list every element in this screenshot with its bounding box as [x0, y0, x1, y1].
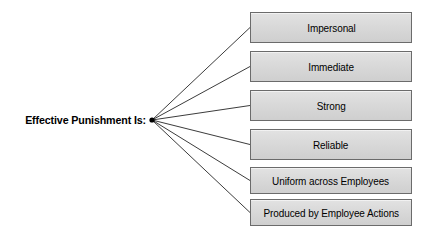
node-label: Produced by Employee Actions — [263, 207, 398, 219]
node-label: Reliable — [313, 139, 348, 151]
node-label: Strong — [317, 100, 346, 112]
connector-line — [152, 106, 250, 121]
node-box-strong[interactable]: Strong — [250, 90, 412, 121]
connector-line — [152, 67, 250, 121]
node-label: Impersonal — [307, 22, 355, 34]
fan-origin-point — [149, 117, 154, 122]
connector-line — [152, 120, 250, 181]
connector-line — [152, 28, 250, 121]
connector-line — [152, 120, 250, 213]
connector-line — [152, 120, 250, 145]
node-box-uniform-across-employees[interactable]: Uniform across Employees — [250, 167, 412, 194]
root-label: Effective Punishment Is: — [23, 113, 146, 127]
node-label: Immediate — [308, 61, 354, 73]
node-box-immediate[interactable]: Immediate — [250, 51, 412, 82]
node-box-reliable[interactable]: Reliable — [250, 129, 412, 160]
node-box-produced-by-employee-actions[interactable]: Produced by Employee Actions — [250, 199, 412, 226]
node-box-impersonal[interactable]: Impersonal — [250, 12, 412, 43]
diagram-canvas: Effective Punishment Is: Impersonal Imme… — [0, 0, 426, 243]
node-label: Uniform across Employees — [273, 175, 390, 187]
